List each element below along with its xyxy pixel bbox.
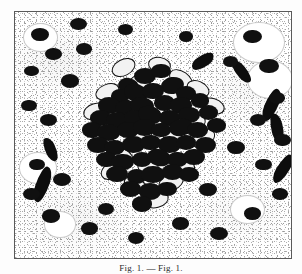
cell-peripheral-scattered-nuclei bbox=[223, 56, 238, 67]
cell-peripheral-scattered-nuclei bbox=[42, 209, 61, 223]
cell-peripheral-scattered-nuclei bbox=[81, 222, 98, 235]
cell-peripheral-halo-cells bbox=[233, 22, 285, 63]
cell-peripheral-scattered-nuclei bbox=[70, 18, 87, 30]
cell-peripheral-scattered-nuclei bbox=[269, 92, 284, 103]
cell-peripheral-scattered-nuclei bbox=[274, 134, 291, 146]
cell-peripheral-scattered-nuclei bbox=[21, 100, 37, 112]
cell-dense-cluster-nuclei bbox=[132, 196, 152, 211]
cell-peripheral-scattered-nuclei bbox=[23, 188, 40, 200]
cell-peripheral-scattered-nuclei bbox=[98, 203, 115, 215]
cell-peripheral-scattered-nuclei bbox=[199, 183, 217, 196]
cell-peripheral-scattered-nuclei bbox=[244, 207, 261, 220]
cell-peripheral-scattered-nuclei bbox=[255, 159, 272, 171]
cell-dense-cluster-nuclei bbox=[207, 118, 226, 133]
cell-peripheral-scattered-nuclei bbox=[61, 74, 79, 87]
cell-peripheral-scattered-nuclei bbox=[243, 30, 262, 44]
cell-peripheral-scattered-nuclei bbox=[40, 114, 57, 126]
cell-peripheral-scattered-nuclei bbox=[45, 48, 62, 60]
cell-peripheral-scattered-nuclei bbox=[31, 28, 49, 41]
cell-dense-cluster-nuclei bbox=[179, 167, 198, 182]
figure-root: Fig. 1. — Fig. 1. bbox=[0, 0, 302, 274]
cell-peripheral-scattered-nuclei bbox=[227, 141, 245, 154]
cell-peripheral-scattered-nuclei bbox=[53, 173, 71, 186]
cell-peripheral-scattered-nuclei bbox=[118, 24, 133, 35]
cell-peripheral-scattered-nuclei bbox=[76, 43, 91, 54]
cell-dense-cluster-nuclei bbox=[141, 166, 164, 183]
cell-dense-cluster-nuclei bbox=[157, 182, 177, 197]
cell-dense-cluster-nuclei bbox=[176, 135, 196, 150]
figure-caption: Fig. 1. — Fig. 1. bbox=[0, 262, 302, 274]
micrograph-plate bbox=[14, 11, 292, 259]
cell-peripheral-scattered-nuclei bbox=[172, 217, 189, 229]
cell-peripheral-scattered-nuclei bbox=[272, 188, 287, 199]
